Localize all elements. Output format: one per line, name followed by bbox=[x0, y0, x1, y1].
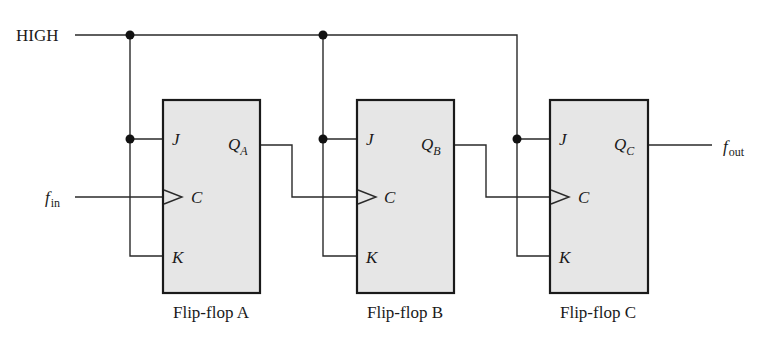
pin-k-label: K bbox=[365, 248, 379, 267]
junction-dot bbox=[319, 135, 328, 144]
junction-dot bbox=[319, 31, 328, 40]
flip-flop-c: J QC C K Flip-flop C bbox=[550, 100, 648, 322]
circuit-diagram: HIGH fin fout J QA C K Flip bbox=[0, 0, 783, 340]
fin-label: fin bbox=[45, 188, 60, 210]
flip-flop-b: J QB C K Flip-flop B bbox=[357, 100, 454, 322]
high-wire bbox=[75, 35, 550, 139]
junction-dot bbox=[126, 31, 135, 40]
flip-flop-c-wiring bbox=[454, 135, 550, 257]
flip-flop-a: J QA C K Flip-flop A bbox=[163, 100, 260, 322]
flip-flop-caption: Flip-flop B bbox=[367, 303, 443, 322]
high-label: HIGH bbox=[16, 26, 59, 45]
output-signal: fout bbox=[648, 137, 745, 159]
flip-flop-caption: Flip-flop C bbox=[560, 303, 636, 322]
junction-dot bbox=[513, 135, 522, 144]
pin-c-label: C bbox=[191, 188, 203, 207]
high-rail: HIGH bbox=[16, 26, 550, 139]
pin-k-label: K bbox=[558, 248, 572, 267]
pin-c-label: C bbox=[578, 188, 590, 207]
flip-flop-a-wiring bbox=[126, 31, 164, 257]
fout-label: fout bbox=[723, 137, 745, 159]
input-signal: fin bbox=[45, 188, 163, 210]
pin-k-label: K bbox=[171, 248, 185, 267]
qa-to-clock-b-wire bbox=[260, 145, 357, 197]
ffa-jk-tie-wire bbox=[130, 35, 163, 256]
flip-flop-b-wiring bbox=[260, 31, 357, 257]
qb-to-clock-c-wire bbox=[454, 145, 550, 197]
junction-dot bbox=[126, 135, 135, 144]
ffb-jk-tie-wire bbox=[323, 35, 357, 256]
flip-flop-caption: Flip-flop A bbox=[173, 303, 250, 322]
pin-c-label: C bbox=[384, 188, 396, 207]
